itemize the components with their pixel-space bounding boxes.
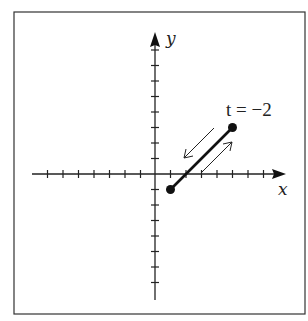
y-axis-arrowhead-icon (150, 32, 160, 47)
x-axis-label: x (278, 179, 288, 199)
x-axis-arrowhead-icon (272, 169, 286, 179)
parametric-segment (171, 128, 233, 190)
direction-arrow-up-right-icon (202, 142, 232, 172)
segment-start-point (166, 185, 175, 194)
y-axis-label: y (165, 28, 176, 48)
y-axis (151, 40, 159, 300)
figure-frame (14, 12, 305, 314)
endpoint-parameter-label: t = −2 (226, 99, 272, 120)
segment-end-point (228, 123, 237, 132)
parametric-diagram: x y t = −2 (0, 0, 308, 321)
direction-arrow-down-left-icon (184, 128, 214, 158)
